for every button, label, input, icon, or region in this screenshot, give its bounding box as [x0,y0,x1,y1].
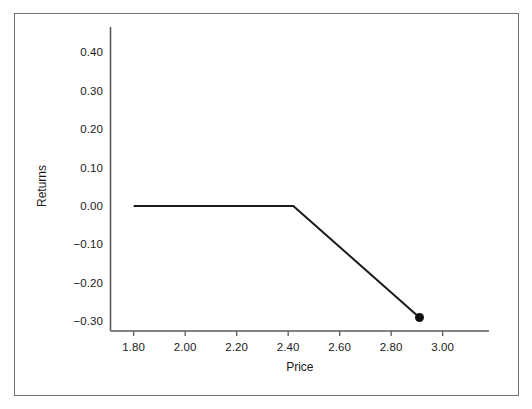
y-axis-tick-label: 0.00 [55,200,103,212]
x-axis-tick-label: 2.20 [225,341,248,353]
x-axis-tick-label: 2.60 [328,341,351,353]
chart-figure: 0.400.300.200.100.00−0.10−0.20−0.30 1.80… [0,0,532,409]
y-axis-title: Returns [35,165,49,207]
y-axis-tick-label: 0.30 [55,85,103,97]
y-axis-tick-label: 0.10 [55,162,103,174]
x-axis-tick-label: 2.80 [380,341,403,353]
y-axis-tick-label: 0.40 [55,46,103,58]
y-axis-tick-label: 0.20 [55,123,103,135]
x-axis-tick-label: 2.40 [277,341,300,353]
x-axis-tick-label: 2.00 [174,341,197,353]
y-axis-tick-label: −0.30 [55,315,103,327]
x-axis-title: Price [286,360,313,374]
returns-series-line [134,206,420,318]
y-axis-tick-label: −0.20 [55,277,103,289]
x-axis-tick-label: 3.00 [431,341,454,353]
endpoint-marker-icon [415,313,424,322]
x-axis-tick-label: 1.80 [122,341,145,353]
y-axis-tick-label: −0.10 [55,238,103,250]
